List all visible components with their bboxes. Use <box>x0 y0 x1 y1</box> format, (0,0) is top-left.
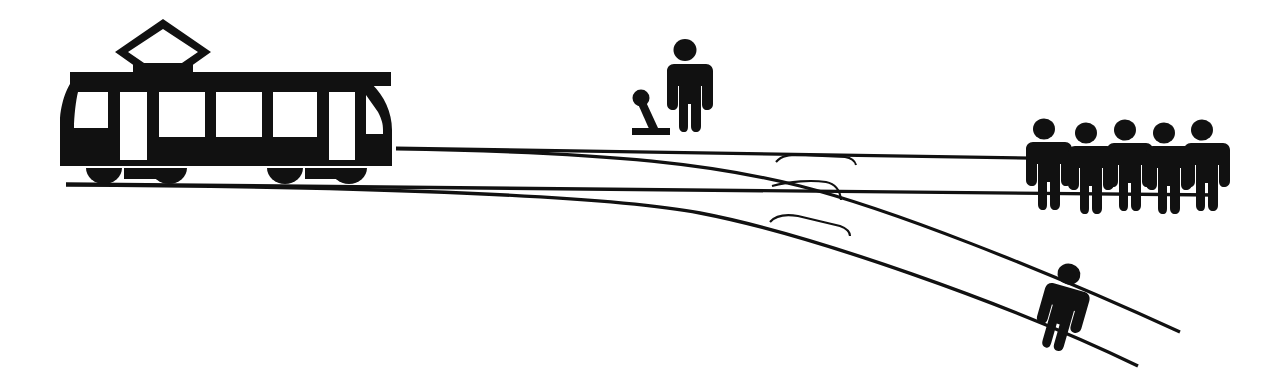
person-head <box>1191 120 1213 141</box>
lever-base-plate <box>632 128 670 135</box>
tram-roof-bar <box>70 72 391 86</box>
person-head <box>1114 120 1136 141</box>
person-head <box>674 39 697 61</box>
person-head <box>1075 123 1097 144</box>
person-head <box>1153 123 1175 144</box>
diagram-canvas <box>0 0 1268 382</box>
person-head <box>1033 119 1055 140</box>
trolley-problem-diagram <box>0 0 1268 382</box>
